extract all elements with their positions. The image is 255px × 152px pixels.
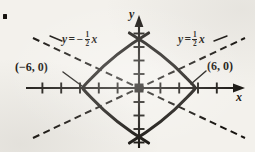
right-eq-equals: = xyxy=(185,34,191,46)
hyperbola-graph xyxy=(0,0,255,152)
right-eq-numerator: 1 xyxy=(193,31,198,38)
right-eq-denominator: 2 xyxy=(193,40,198,47)
left-asymptote-equation-label: y = − 1 2 x xyxy=(62,31,97,48)
right-vertex-label: (6, 0) xyxy=(207,60,233,72)
y-axis-label: y xyxy=(129,8,134,20)
right-eq-trailing-variable: x xyxy=(199,34,205,46)
left-vertex-label: (−6, 0) xyxy=(15,61,48,73)
right-eq-variable: y xyxy=(178,34,183,46)
leader-line-right-equation xyxy=(214,36,227,41)
left-eq-minus-sign: − xyxy=(76,34,83,46)
x-axis-label: x xyxy=(236,91,242,103)
left-eq-equals: = xyxy=(69,34,75,46)
leader-line-right-vertex xyxy=(191,71,206,84)
right-asymptote-equation-label: y = 1 2 x xyxy=(178,31,205,48)
leader-line-left-vertex xyxy=(63,72,82,86)
y-axis-arrowhead xyxy=(135,15,144,27)
left-eq-variable: y xyxy=(62,34,67,46)
figure-canvas: y = − 1 2 x y = 1 2 x (−6, 0) (6, 0) y x xyxy=(0,0,255,152)
leader-line-left-equation xyxy=(50,36,62,41)
left-eq-denominator: 2 xyxy=(85,40,90,47)
left-eq-fraction: 1 2 xyxy=(85,31,90,48)
right-eq-fraction: 1 2 xyxy=(192,31,197,48)
left-eq-numerator: 1 xyxy=(85,31,90,38)
left-eq-trailing-variable: x xyxy=(91,34,97,46)
